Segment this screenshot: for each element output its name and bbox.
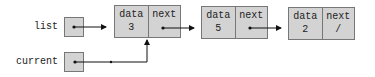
pointer-arrows bbox=[0, 0, 375, 77]
arrow-node-2-to-node-3 bbox=[248, 26, 281, 29]
arrow-current-to-node-1 bbox=[73, 40, 147, 64]
arrow-list-to-node-1 bbox=[72, 25, 106, 28]
arrow-node-1-to-node-2 bbox=[161, 26, 194, 29]
